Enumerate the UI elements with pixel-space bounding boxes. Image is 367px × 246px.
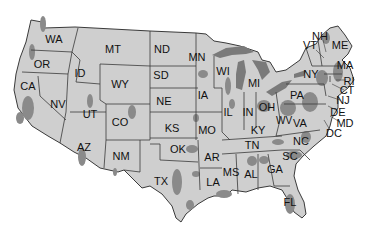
state-label-sd: SD [153,70,168,81]
state-label-nm: NM [112,151,129,162]
state-label-wv: WV [276,116,292,126]
state-label-ok: OK [170,144,186,155]
state-label-ne: NE [156,96,171,107]
state-label-mi: MI [248,78,260,89]
state-label-nj: NJ [336,95,349,106]
state-label-il: IL [223,107,232,118]
state-label-dc: DC [326,128,342,139]
state-label-mt: MT [105,44,121,55]
state-label-fl: FL [284,197,297,208]
state-label-in: IN [243,107,254,118]
state-label-ms: MS [223,167,240,178]
state-label-nc: NC [293,136,309,147]
state-label-wa: WA [45,34,62,45]
state-label-ut: UT [83,109,98,120]
state-label-ky: KY [251,125,266,136]
state-label-va: VA [293,118,307,129]
state-label-pa: PA [290,90,304,101]
state-label-wi: WI [216,66,229,77]
state-label-id: ID [75,68,86,79]
state-label-ma: MA [337,60,354,71]
state-label-or: OR [34,59,51,70]
state-label-sc: SC [282,151,297,162]
state-label-mo: MO [198,125,216,136]
state-label-az: AZ [77,142,91,153]
state-label-al: AL [244,169,257,180]
state-label-tn: TN [245,140,260,151]
state-label-ks: KS [165,123,180,134]
state-label-nh: NH [312,31,328,42]
state-label-ca: CA [20,81,35,92]
state-label-tx: TX [154,176,168,187]
state-label-me: ME [332,40,349,51]
state-label-nv: NV [50,99,65,110]
state-label-nd: ND [154,44,170,55]
state-label-co: CO [112,117,129,128]
state-label-ar: AR [204,152,219,163]
state-label-ga: GA [267,164,283,175]
us-map: WA OR CA NV ID MT WY UT CO AZ NM ND SD N… [0,0,367,246]
state-label-oh: OH [259,102,276,113]
state-label-wy: WY [111,79,129,90]
state-label-mn: MN [188,52,205,63]
state-label-ia: IA [198,90,208,101]
state-label-la: LA [206,177,219,188]
state-label-ny: NY [303,69,318,80]
